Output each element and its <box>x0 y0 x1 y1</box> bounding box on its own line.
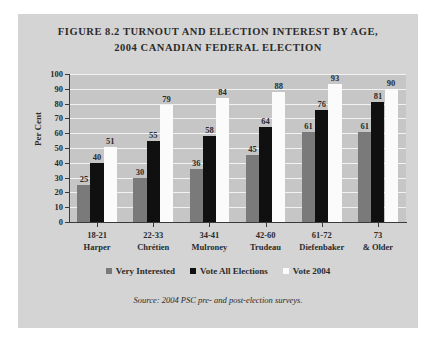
y-axis-tick-mark <box>65 178 69 179</box>
y-axis-tick-mark <box>65 222 69 223</box>
bar: 40 <box>90 163 103 222</box>
bar: 58 <box>203 136 216 222</box>
bar-chart: 0102030405060708090100 Per Cent 25405130… <box>32 72 408 262</box>
y-axis-tick-mark <box>65 118 69 119</box>
bar-value-label: 64 <box>261 117 270 126</box>
bar-value-label: 58 <box>205 126 214 135</box>
x-axis-category-label: 42-60Trudeau <box>238 229 294 253</box>
y-axis-tick-mark <box>65 148 69 149</box>
bar-group: 618190 <box>358 73 398 222</box>
y-axis-tick-mark <box>65 163 69 164</box>
y-axis-tick-label: 20 <box>37 188 63 196</box>
bar-value-label: 93 <box>331 74 340 83</box>
bar-value-label: 61 <box>360 122 369 131</box>
bar-group: 365884 <box>190 73 230 222</box>
source-note: Source: 2004 PSC pre- and post-election … <box>18 295 418 305</box>
y-axis-line <box>69 74 70 223</box>
gridline <box>69 163 406 164</box>
figure-title-line-2: 2004 CANADIAN FEDERAL ELECTION <box>18 40 418 56</box>
chart-legend: Very InterestedVote All ElectionsVote 20… <box>18 266 418 276</box>
x-axis-category-label: 18-21Harper <box>69 229 125 253</box>
legend-label: Very Interested <box>116 266 175 276</box>
bar-value-label: 61 <box>304 122 313 131</box>
y-axis-tick-label: 30 <box>37 174 63 182</box>
bar: 61 <box>358 132 371 222</box>
bar: 25 <box>77 185 90 222</box>
legend-swatch-icon <box>106 268 112 274</box>
category-age-range: 34-41 <box>181 229 237 241</box>
y-axis-tick-mark <box>65 207 69 208</box>
gridline <box>69 207 406 208</box>
bar-value-label: 55 <box>149 131 158 140</box>
bar-value-label: 30 <box>136 168 145 177</box>
category-cohort-name: Mulroney <box>181 241 237 253</box>
bar-value-label: 84 <box>218 88 227 97</box>
x-axis-line <box>69 222 407 223</box>
gridline <box>69 104 406 105</box>
gridline <box>69 178 406 179</box>
figure-panel: FIGURE 8.2 TURNOUT AND ELECTION INTEREST… <box>18 14 418 328</box>
category-cohort-name: Diefenbaker <box>294 241 350 253</box>
bar: 51 <box>104 147 117 222</box>
category-age-range: 61-72 <box>294 229 350 241</box>
bar: 61 <box>302 132 315 222</box>
legend-label: Vote 2004 <box>293 266 330 276</box>
gridline <box>69 89 406 90</box>
y-axis-tick-mark <box>65 133 69 134</box>
y-axis-title: Per Cent <box>33 103 43 155</box>
legend-item: Vote 2004 <box>283 266 330 276</box>
bar-value-label: 79 <box>162 95 171 104</box>
gridline <box>69 118 406 119</box>
bar: 36 <box>190 169 203 222</box>
gridline <box>69 148 406 149</box>
bar-group: 254051 <box>77 73 117 222</box>
bar-value-label: 90 <box>387 79 396 88</box>
bar: 45 <box>246 155 259 222</box>
category-age-range: 22-33 <box>125 229 181 241</box>
bar-group: 617693 <box>302 73 342 222</box>
bar: 93 <box>328 84 341 222</box>
bar-value-label: 45 <box>248 145 257 154</box>
y-axis-tick-mark <box>65 104 69 105</box>
y-axis-tick-label: 90 <box>37 85 63 93</box>
x-axis-tick-mark <box>153 223 154 227</box>
legend-label: Vote All Elections <box>200 266 268 276</box>
figure-title: FIGURE 8.2 TURNOUT AND ELECTION INTEREST… <box>18 24 418 56</box>
gridline <box>69 74 406 75</box>
figure-title-line-1: FIGURE 8.2 TURNOUT AND ELECTION INTEREST… <box>18 24 418 40</box>
bar: 76 <box>315 110 328 222</box>
bar: 55 <box>147 141 160 222</box>
x-axis-tick-mark <box>97 223 98 227</box>
category-age-range: 42-60 <box>238 229 294 241</box>
y-axis-tick-mark <box>65 89 69 90</box>
bar: 79 <box>160 105 173 222</box>
category-age-range: 18-21 <box>69 229 125 241</box>
bar: 81 <box>371 102 384 222</box>
gridline <box>69 133 406 134</box>
bar-value-label: 81 <box>374 92 383 101</box>
legend-swatch-icon <box>283 268 289 274</box>
y-axis-tick-mark <box>65 192 69 193</box>
category-age-range: 73 <box>350 229 406 241</box>
bar: 90 <box>385 89 398 222</box>
x-axis-category-label: 34-41Mulroney <box>181 229 237 253</box>
x-axis-category-label: 61-72Diefenbaker <box>294 229 350 253</box>
x-axis-tick-mark <box>266 223 267 227</box>
x-axis-tick-mark <box>322 223 323 227</box>
bar: 64 <box>259 127 272 222</box>
x-axis-tick-mark <box>209 223 210 227</box>
bar: 30 <box>133 178 146 222</box>
x-axis-category-label: 73& Older <box>350 229 406 253</box>
bar-group: 456488 <box>246 73 286 222</box>
bar-value-label: 36 <box>192 159 201 168</box>
y-axis-tick-label: 10 <box>37 203 63 211</box>
bar-value-label: 40 <box>93 153 102 162</box>
x-axis-category-label: 22-33Chrétien <box>125 229 181 253</box>
gridline <box>69 192 406 193</box>
bar-group: 305579 <box>133 73 173 222</box>
category-cohort-name: Trudeau <box>238 241 294 253</box>
legend-item: Very Interested <box>106 266 175 276</box>
bar: 88 <box>272 92 285 222</box>
figure-page: FIGURE 8.2 TURNOUT AND ELECTION INTEREST… <box>0 0 433 342</box>
category-cohort-name: Chrétien <box>125 241 181 253</box>
